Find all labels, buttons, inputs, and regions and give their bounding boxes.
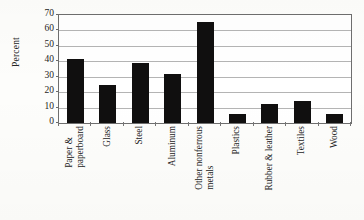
bar xyxy=(99,85,116,123)
x-axis-label-slot: Textiles xyxy=(285,126,317,218)
bar xyxy=(197,22,214,123)
y-axis-tick-label: 40 xyxy=(34,55,54,64)
x-axis-tickmark xyxy=(350,122,351,126)
x-axis-tick-label-line: Paper & xyxy=(64,137,74,168)
x-axis-tick-label-line: Textiles xyxy=(296,126,306,155)
x-axis-tick-label: Aluminum xyxy=(166,126,177,166)
x-axis-tick-label: Steel xyxy=(134,126,145,145)
x-axis-tick-label: Textiles xyxy=(296,126,307,155)
x-axis-tick-label: Paper &paperboard xyxy=(64,126,85,168)
y-axis-tick-labels: 706050403020100 xyxy=(34,14,54,122)
x-axis-label-slot: Other nonferrousmetals xyxy=(188,126,220,218)
x-axis-tick-label-line: Steel xyxy=(134,126,144,145)
bar xyxy=(67,59,84,123)
y-axis-tick-label: 0 xyxy=(34,117,54,126)
x-axis-tick-label-line: metals xyxy=(204,126,215,190)
x-axis-label-slot: Aluminum xyxy=(155,126,187,218)
bars-layer xyxy=(59,15,351,123)
x-axis-tick-label: Rubber & leather xyxy=(264,126,275,191)
y-axis-tick-label: 50 xyxy=(34,40,54,49)
bar xyxy=(294,101,311,123)
y-axis-tick-label: 70 xyxy=(34,9,54,18)
y-axis-tick-label: 60 xyxy=(34,24,54,33)
x-axis-tick-label-line: Rubber & leather xyxy=(264,126,274,191)
bar xyxy=(164,74,181,123)
x-axis-tick-label-line: Wood xyxy=(329,126,339,148)
x-axis-label-slot: Rubber & leather xyxy=(253,126,285,218)
x-axis-label-slot: Steel xyxy=(123,126,155,218)
x-axis-label-slot: Plastics xyxy=(220,126,252,218)
x-axis-tick-label: Plastics xyxy=(231,126,242,154)
plot-area xyxy=(58,14,352,124)
x-axis-tick-label-line: Plastics xyxy=(231,126,241,154)
x-axis-label-slot: Paper &paperboard xyxy=(58,126,90,218)
x-axis-label-slot: Wood xyxy=(318,126,350,218)
x-axis-tick-label-line: Other nonferrous xyxy=(193,126,203,190)
y-axis-tick-label: 20 xyxy=(34,86,54,95)
x-axis-tick-label: Glass xyxy=(101,126,112,147)
x-axis-tick-label-line: Aluminum xyxy=(166,126,176,166)
x-axis-tick-label-line: Glass xyxy=(101,126,111,147)
y-axis-tick-label: 10 xyxy=(34,102,54,111)
y-axis-title: Percent xyxy=(11,22,21,82)
bar xyxy=(132,63,149,123)
x-axis-category-labels: Paper &paperboardGlassSteelAluminumOther… xyxy=(58,126,350,218)
x-axis-tick-label: Wood xyxy=(329,126,340,148)
bar-chart-figure: Percent 706050403020100 Paper &paperboar… xyxy=(0,0,364,220)
x-axis-tick-label: Other nonferrousmetals xyxy=(193,126,214,190)
x-axis-tick-label-line: paperboard xyxy=(74,126,85,168)
y-axis-tick-label: 30 xyxy=(34,71,54,80)
bar xyxy=(261,104,278,123)
x-axis-label-slot: Glass xyxy=(90,126,122,218)
